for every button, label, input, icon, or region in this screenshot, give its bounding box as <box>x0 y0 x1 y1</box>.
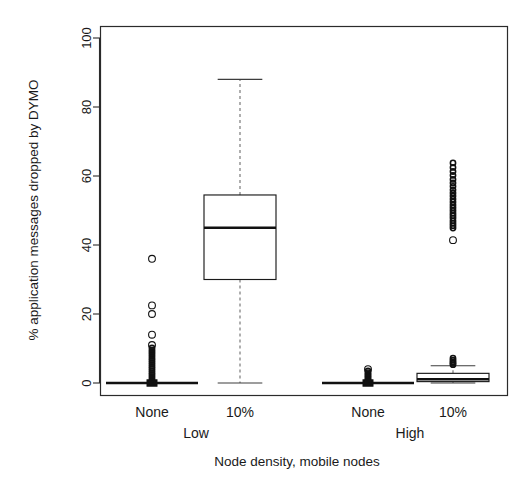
outlier-1-2 <box>149 302 156 309</box>
x-tick-label-3: None <box>351 404 385 420</box>
y-tick-label-40: 40 <box>79 238 94 252</box>
outlier-1-3 <box>149 311 156 318</box>
x-tick-label-4: 10% <box>439 404 467 420</box>
y-axis-ticks <box>93 38 100 383</box>
boxes-layer <box>106 79 489 386</box>
box-group-2 <box>204 79 276 383</box>
outlier-1-1 <box>149 255 156 262</box>
y-tick-label-0: 0 <box>79 379 94 386</box>
x-axis-title: Node density, mobile nodes <box>214 454 380 469</box>
boxplot-svg: 100 80 60 40 20 0 % application messages… <box>0 0 521 484</box>
y-axis-title: % application messages dropped by DYMO <box>26 79 41 340</box>
outlier-4-23 <box>450 237 457 244</box>
x-tick-label-1: None <box>135 404 169 420</box>
x-tick-label-2: 10% <box>226 404 254 420</box>
y-tick-label-60: 60 <box>79 169 94 183</box>
box-group-3 <box>322 366 414 386</box>
x-group-label-high: High <box>396 425 425 441</box>
box-group-1 <box>106 255 198 386</box>
box-group-4 <box>417 160 489 383</box>
plot-frame <box>101 27 508 396</box>
boxplot-figure: 100 80 60 40 20 0 % application messages… <box>0 0 521 484</box>
box-rect-2 <box>204 195 276 280</box>
x-group-label-low: Low <box>183 425 210 441</box>
y-tick-label-80: 80 <box>79 100 94 114</box>
y-tick-label-100: 100 <box>79 27 94 49</box>
outlier-1-4 <box>149 331 156 338</box>
y-tick-label-20: 20 <box>79 307 94 321</box>
